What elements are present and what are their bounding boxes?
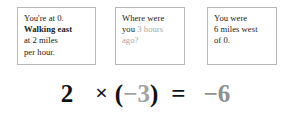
- equation-paren-close: ): [150, 81, 158, 106]
- box1-line-3: at 2 miles: [24, 35, 89, 46]
- equation-factor-b: −3: [123, 81, 150, 106]
- equation-factor-a: 2: [61, 81, 74, 106]
- box2-line-2-muted: 3 hours: [137, 24, 163, 34]
- box3-line-2: 6 miles west: [214, 24, 270, 35]
- box3-line-3: of 0.: [214, 35, 270, 46]
- equation-row: 2 × ( −3 ) = −6: [0, 72, 291, 114]
- scenario-box-question: Where were you 3 hours ago?: [115, 7, 185, 65]
- scenario-box-starting-position: You're at 0. Walking east at 2 miles per…: [17, 7, 96, 65]
- box2-line-1: Where were: [122, 13, 178, 24]
- box1-line-1: You're at 0.: [24, 13, 89, 24]
- box1-line-4: per hour.: [24, 47, 89, 58]
- scenario-boxes-row: You're at 0. Walking east at 2 miles per…: [0, 0, 291, 70]
- equation-result: −6: [203, 81, 230, 106]
- worked-example-figure: You're at 0. Walking east at 2 miles per…: [0, 0, 291, 114]
- box2-line-3-muted: ago?: [122, 35, 178, 46]
- box2-line-2: you 3 hours: [122, 24, 178, 35]
- equation-equals-sign: =: [171, 81, 185, 106]
- multiplication-icon: ×: [95, 82, 108, 104]
- box1-line-2-bold: Walking east: [24, 24, 89, 35]
- scenario-box-answer: You were 6 miles west of 0.: [207, 7, 277, 65]
- box2-line-2-normal: you: [122, 24, 137, 34]
- equation-paren-open: (: [115, 81, 123, 106]
- box3-line-1: You were: [214, 13, 270, 24]
